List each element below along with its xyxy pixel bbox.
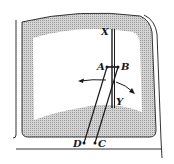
pivot-c xyxy=(94,142,97,145)
label-d: D xyxy=(73,139,82,149)
label-x: X xyxy=(101,27,109,37)
label-y: Y xyxy=(116,97,123,107)
wiper-linkage-diagram xyxy=(0,0,174,164)
label-c: C xyxy=(98,139,106,149)
left-frame-edge xyxy=(13,20,16,138)
label-b: B xyxy=(121,62,129,72)
pivot-d xyxy=(83,142,86,145)
label-a: A xyxy=(97,62,105,72)
